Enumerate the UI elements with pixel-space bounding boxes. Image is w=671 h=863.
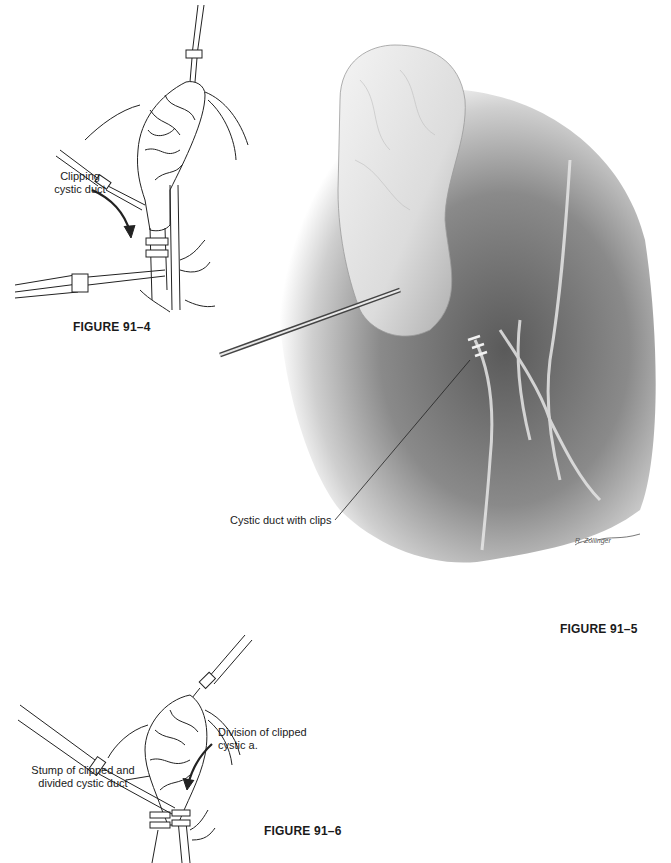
clipping-cystic-duct-label: Clipping cystic duct [40, 170, 120, 196]
cystic-duct-with-clips-label: Cystic duct with clips [230, 514, 331, 527]
figure-91-4-caption: FIGURE 91–4 [73, 320, 151, 334]
stump-of-clipped-cystic-duct-label: Stump of clipped and divided cystic duct [28, 764, 138, 790]
figure-91-6-caption: FIGURE 91–6 [264, 824, 342, 838]
figure-91-6: Division of clipped cystic a. Stump of c… [0, 640, 360, 863]
illustrator-signature: R. Zollinger [575, 534, 611, 547]
figure-91-5-caption: FIGURE 91–5 [560, 622, 638, 636]
division-of-clipped-cystic-artery-label: Division of clipped cystic a. [218, 726, 307, 752]
figure-91-5: Cystic duct with clips R. Zollinger FIGU… [220, 40, 671, 650]
